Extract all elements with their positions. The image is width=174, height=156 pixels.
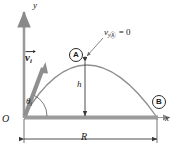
range-label: R <box>81 132 87 142</box>
apex-velocity-equals-zero: = 0 <box>116 27 130 37</box>
initial-velocity-vector <box>25 62 48 116</box>
x-axis-label: x <box>165 114 169 123</box>
y-axis-label: y <box>33 1 37 10</box>
vector-overarrow-icon <box>25 49 36 53</box>
launch-angle-subscript: i <box>30 101 32 107</box>
apex-vertical-velocity-label: vyⒶ = 0 <box>104 28 131 38</box>
launch-angle-label: θi <box>26 97 32 107</box>
landing-point-marker: B <box>152 95 166 109</box>
projectile-motion-figure: y x O v i θi h R vyⒶ = 0 A B <box>0 0 174 156</box>
origin-label: O <box>2 114 9 124</box>
initial-velocity-subscript: i <box>30 57 32 64</box>
apex-point-marker: A <box>69 48 83 62</box>
apex-point-dot <box>83 56 86 59</box>
initial-velocity-label: v i <box>25 52 32 65</box>
apex-velocity-leader-line <box>87 38 103 56</box>
max-height-label: h <box>77 80 82 89</box>
launch-angle-arc <box>35 96 48 117</box>
